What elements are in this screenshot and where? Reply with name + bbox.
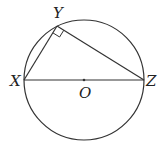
label-z: Z bbox=[145, 72, 157, 90]
center-point bbox=[83, 79, 86, 82]
segment-xy bbox=[24, 26, 57, 80]
segment-yz bbox=[57, 26, 144, 80]
label-y: Y bbox=[53, 4, 65, 22]
label-o: O bbox=[79, 84, 91, 102]
label-x: X bbox=[9, 72, 22, 90]
circle-triangle-diagram: Y X Z O bbox=[0, 0, 160, 149]
